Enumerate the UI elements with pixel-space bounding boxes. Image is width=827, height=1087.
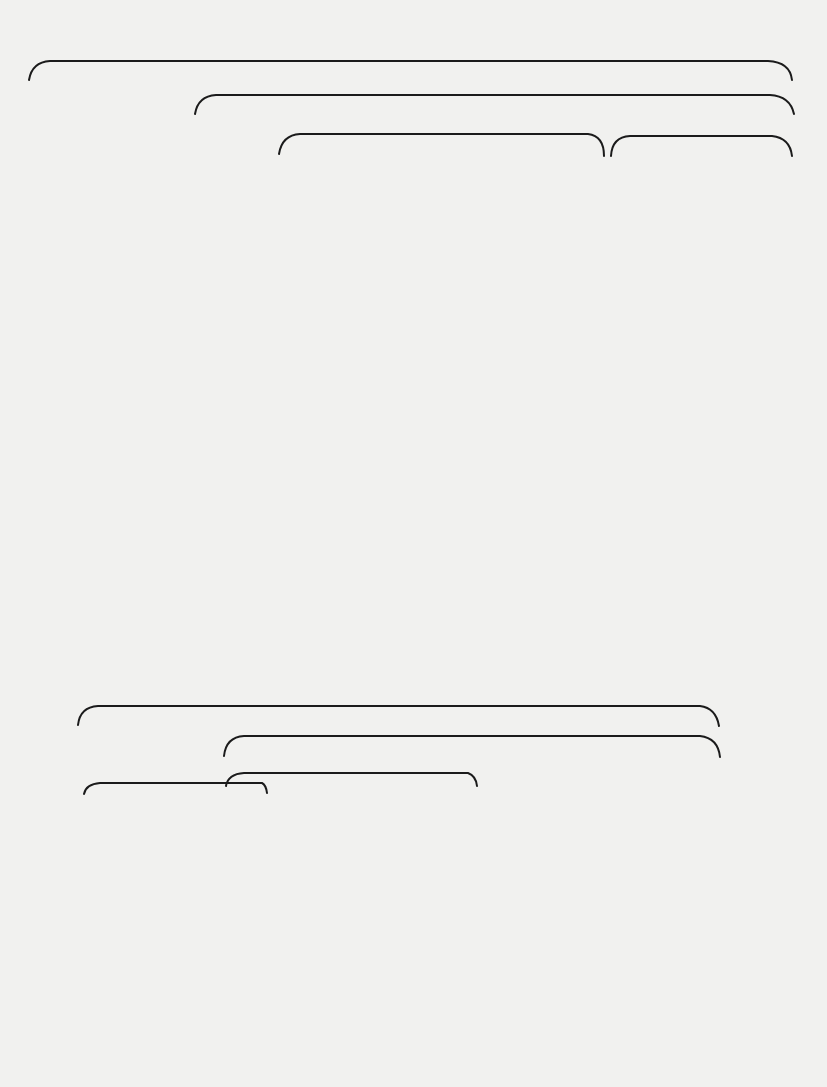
cladogram-page bbox=[0, 0, 827, 1087]
bracket-geolabididae bbox=[84, 783, 267, 794]
bracket-soricoidea bbox=[224, 736, 720, 757]
bracket-soricomorpha bbox=[78, 706, 719, 726]
soricomorpha-cladogram bbox=[0, 0, 827, 1087]
